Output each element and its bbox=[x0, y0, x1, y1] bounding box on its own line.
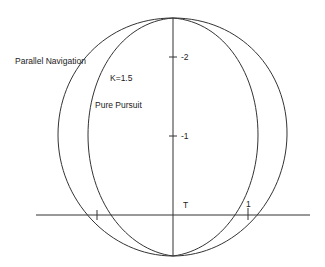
tick-label-y-minus-1: -1 bbox=[181, 132, 189, 141]
gain-label: K=1.5 bbox=[110, 74, 132, 83]
diagram-canvas bbox=[0, 0, 325, 267]
target-label: T bbox=[183, 201, 188, 210]
parallel-navigation-label: Parallel Navigation bbox=[15, 57, 86, 66]
tick-label-y-minus-2: -2 bbox=[181, 53, 189, 62]
pure-pursuit-label: Pure Pursuit bbox=[95, 101, 142, 110]
trajectory-diagram: Parallel Navigation K=1.5 Pure Pursuit -… bbox=[0, 0, 325, 267]
tick-label-x-1: 1 bbox=[246, 200, 251, 209]
